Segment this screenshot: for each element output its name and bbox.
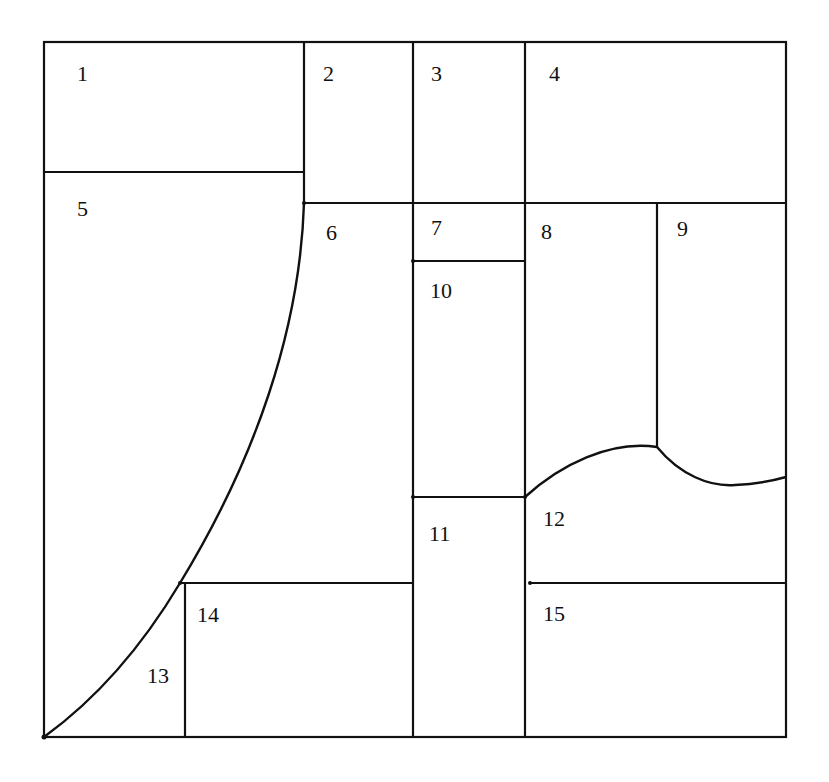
region-label-5: 5: [77, 196, 88, 221]
region-label-1: 1: [77, 61, 88, 86]
junction-node: [302, 201, 306, 205]
dissection-diagram: 1 2 3 4 5 6 7 8 9 10 11 12 13 14 15: [0, 0, 829, 782]
region-label-8: 8: [541, 219, 552, 244]
region-label-4: 4: [549, 61, 560, 86]
junction-node: [523, 495, 527, 499]
region-label-9: 9: [677, 216, 688, 241]
region-label-13: 13: [147, 663, 169, 688]
region-label-11: 11: [429, 521, 450, 546]
region-label-2: 2: [323, 61, 334, 86]
junction-node: [411, 495, 415, 499]
junction-node: [178, 581, 182, 585]
wave-9-12: [657, 447, 786, 485]
junction-node: [528, 581, 532, 585]
junction-node: [42, 735, 47, 740]
region-label-10: 10: [430, 278, 452, 303]
region-label-15: 15: [543, 601, 565, 626]
region-label-12: 12: [543, 506, 565, 531]
junction-node: [411, 259, 415, 263]
region-label-3: 3: [431, 61, 442, 86]
wave-8-12: [525, 446, 657, 497]
region-label-7: 7: [431, 215, 442, 240]
region-label-6: 6: [326, 220, 337, 245]
outer-square: [44, 42, 786, 737]
curve-5-6: [44, 203, 304, 737]
region-label-14: 14: [197, 602, 219, 627]
